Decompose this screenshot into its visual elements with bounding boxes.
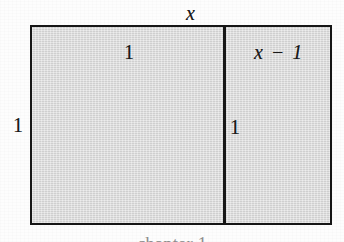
geometry-figure: x 1 1 x − 1 1 chapter 1 [0,0,344,242]
right-cell-width-label: x − 1 [254,42,304,62]
overall-width-label: x [186,3,195,23]
right-cell-height-label: 1 [230,117,240,137]
bottom-caption-clipped: chapter 1 [0,233,344,242]
overall-height-label: 1 [13,115,23,135]
left-cell-width-label: 1 [124,42,134,62]
vertical-divider-line [223,27,226,223]
